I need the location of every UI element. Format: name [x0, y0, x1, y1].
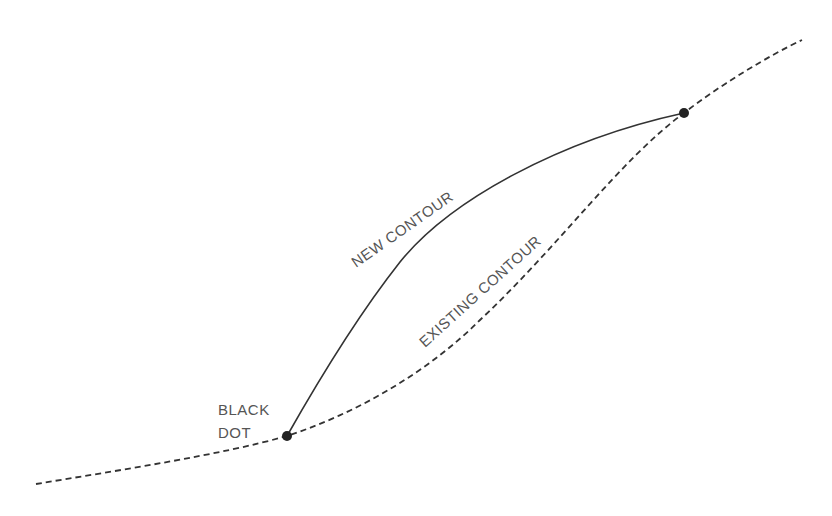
new-contour-label: NEW CONTOUR: [348, 188, 456, 271]
existing-contour-label: EXISTING CONTOUR: [416, 232, 545, 350]
black-dot-label-line1: BLACK: [218, 401, 270, 418]
black-dot-lower: [282, 431, 292, 441]
existing-contour-line: [36, 40, 802, 484]
black-dot-label-line2: DOT: [218, 424, 251, 441]
contour-diagram: BLACK DOT NEW CONTOUR EXISTING CONTOUR: [0, 0, 832, 516]
black-dot-upper: [679, 108, 689, 118]
